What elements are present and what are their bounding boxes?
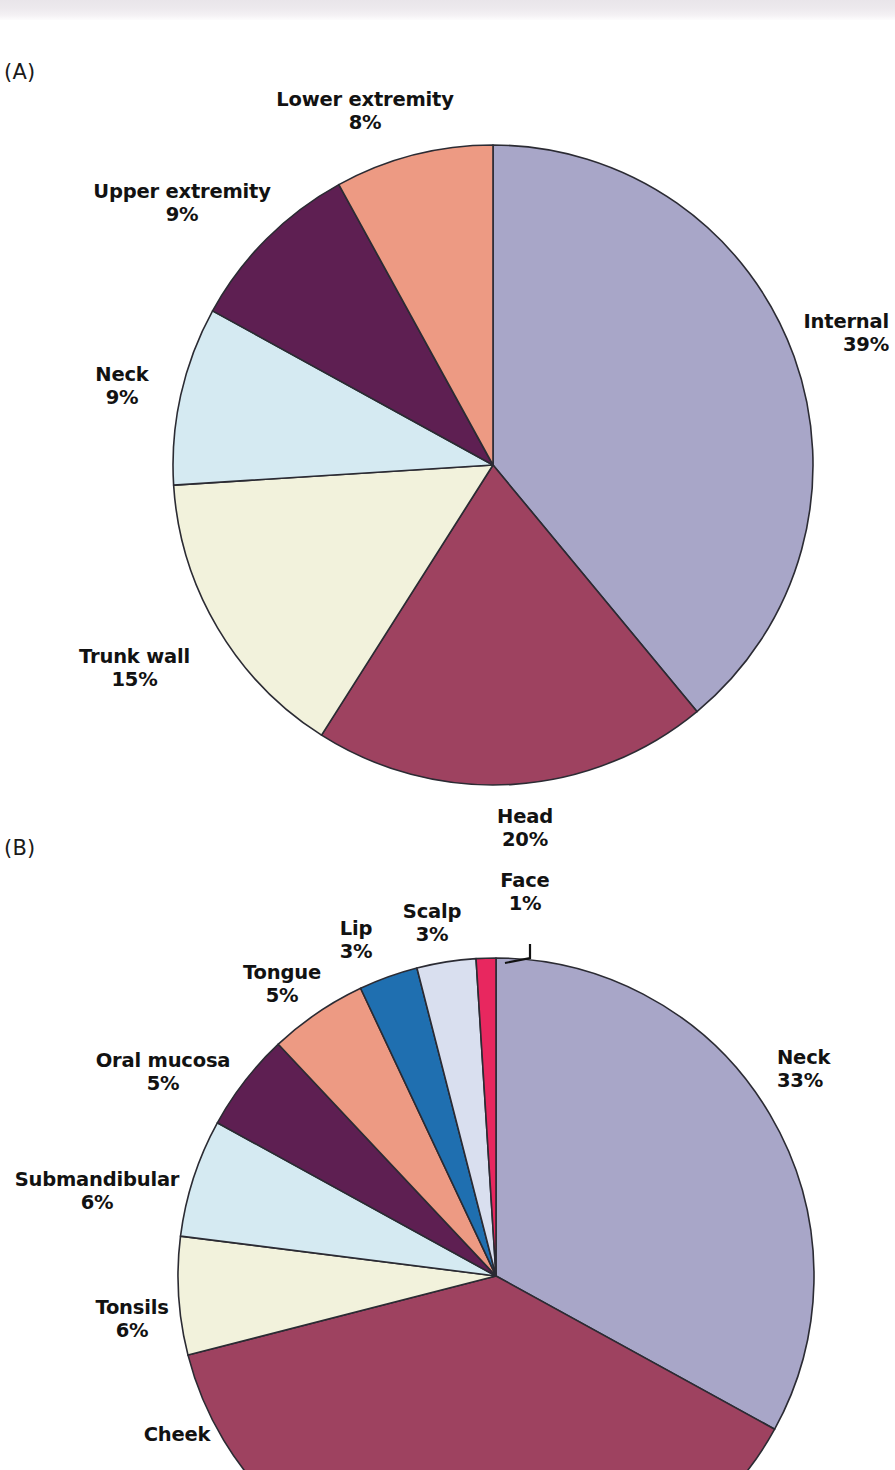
label-text: Submandibular xyxy=(15,1168,180,1191)
label-pct: 5% xyxy=(68,1072,258,1095)
label-text: Lip xyxy=(340,917,372,940)
label-text: Tongue xyxy=(243,961,321,984)
pie-chart-b xyxy=(0,0,895,1470)
pie-b-label-cheek: Cheek xyxy=(112,1423,242,1446)
label-text: Face xyxy=(500,869,549,892)
pie-b-label-tongue: Tongue 5% xyxy=(217,961,347,1007)
label-text: Cheek xyxy=(144,1423,211,1446)
label-text: Neck xyxy=(777,1046,830,1069)
pie-b-label-lip: Lip 3% xyxy=(311,917,401,963)
label-text: Scalp xyxy=(403,900,461,923)
label-pct: 5% xyxy=(217,984,347,1007)
pie-b-label-tonsils: Tonsils 6% xyxy=(67,1296,197,1342)
pie-b-slices xyxy=(178,958,814,1470)
label-text: Tonsils xyxy=(95,1296,168,1319)
pie-b-label-neck: Neck 33% xyxy=(777,1046,895,1092)
label-pct: 33% xyxy=(777,1069,895,1092)
pie-b-label-oral-mucosa: Oral mucosa 5% xyxy=(68,1049,258,1095)
pie-b-label-submandibular: Submandibular 6% xyxy=(2,1168,192,1214)
label-pct: 6% xyxy=(2,1191,192,1214)
label-text: Oral mucosa xyxy=(96,1049,231,1072)
label-pct: 6% xyxy=(67,1319,197,1342)
label-pct: 3% xyxy=(311,940,401,963)
